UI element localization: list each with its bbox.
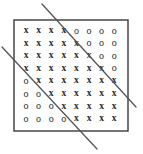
class-x-marker: x xyxy=(36,50,41,60)
class-o-marker: o xyxy=(99,37,104,48)
class-x-marker: x xyxy=(49,63,54,73)
class-x-marker: x xyxy=(99,101,104,111)
class-o-marker: o xyxy=(112,25,117,36)
figure-container: xxxxooooxxxxxoooxxxxxxooxxxxxxxooxxxxxxx… xyxy=(0,0,143,154)
class-x-marker: x xyxy=(61,101,66,111)
class-x-marker: x xyxy=(74,63,79,73)
class-o-marker: o xyxy=(99,50,104,61)
class-x-marker: x xyxy=(61,63,66,73)
class-x-marker: x xyxy=(49,75,54,85)
class-x-marker: x xyxy=(99,113,104,123)
figure-canvas: xxxxooooxxxxxoooxxxxxxooxxxxxxxooxxxxxxx… xyxy=(0,0,143,154)
class-x-marker: x xyxy=(74,113,79,123)
class-x-marker: x xyxy=(36,63,41,73)
class-x-marker: x xyxy=(99,75,104,85)
class-o-marker: o xyxy=(112,62,117,73)
class-x-marker: x xyxy=(24,38,29,48)
class-x-marker: x xyxy=(87,75,92,85)
class-o-marker: o xyxy=(24,88,29,99)
class-x-marker: x xyxy=(74,50,79,60)
class-x-marker: x xyxy=(74,75,79,85)
class-x-marker: x xyxy=(112,113,117,123)
class-x-marker: x xyxy=(24,50,29,60)
class-x-marker: x xyxy=(36,38,41,48)
class-x-marker: x xyxy=(24,25,29,35)
class-o-marker: o xyxy=(24,113,29,124)
class-x-marker: x xyxy=(74,101,79,111)
class-x-marker: x xyxy=(99,88,104,98)
class-x-marker: x xyxy=(36,25,41,35)
class-x-marker: x xyxy=(87,101,92,111)
class-x-marker: x xyxy=(61,38,66,48)
class-o-marker: o xyxy=(74,25,79,36)
class-x-marker: x xyxy=(112,88,117,98)
class-x-marker: x xyxy=(61,50,66,60)
class-x-marker: x xyxy=(87,63,92,73)
class-o-marker: o xyxy=(24,75,29,86)
class-o-marker: o xyxy=(36,100,41,111)
class-o-marker: o xyxy=(87,25,92,36)
class-o-marker: o xyxy=(112,37,117,48)
class-o-marker: o xyxy=(24,100,29,111)
class-x-marker: x xyxy=(87,113,92,123)
class-x-marker: x xyxy=(61,75,66,85)
class-o-marker: o xyxy=(36,113,41,124)
class-o-marker: o xyxy=(99,25,104,36)
class-x-marker: x xyxy=(49,38,54,48)
class-x-marker: x xyxy=(112,101,117,111)
class-o-marker: o xyxy=(49,113,54,124)
class-o-marker: o xyxy=(87,37,92,48)
class-x-marker: x xyxy=(49,25,54,35)
class-x-marker: x xyxy=(49,50,54,60)
class-x-marker: x xyxy=(49,88,54,98)
class-o-marker: o xyxy=(36,88,41,99)
class-o-marker: o xyxy=(112,50,117,61)
class-x-marker: x xyxy=(61,88,66,98)
class-x-marker: x xyxy=(87,88,92,98)
class-x-marker: x xyxy=(74,88,79,98)
